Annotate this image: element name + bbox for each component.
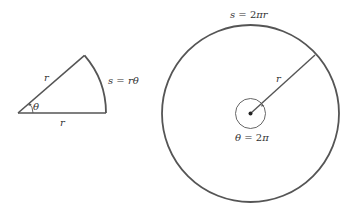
sector-base-label: r bbox=[60, 117, 66, 128]
circle-radius-line bbox=[251, 55, 316, 114]
circle-radius-label: r bbox=[276, 73, 282, 84]
sector-radius-line bbox=[18, 55, 85, 113]
circle-figure: s = 2πr r θ = 2π bbox=[162, 9, 339, 202]
sector-figure: r θ r s = rθ bbox=[18, 55, 139, 128]
sector-radius-label: r bbox=[44, 72, 50, 83]
circle-angle-label: θ = 2π bbox=[235, 132, 269, 143]
circumference-label: s = 2πr bbox=[230, 9, 269, 20]
center-point bbox=[249, 112, 253, 116]
sector-arc-label: s = rθ bbox=[108, 75, 139, 86]
radian-diagram: r θ r s = rθ s = 2πr r θ = 2π bbox=[0, 0, 348, 214]
sector-angle-label: θ bbox=[33, 101, 39, 112]
sector-arc bbox=[85, 55, 107, 113]
